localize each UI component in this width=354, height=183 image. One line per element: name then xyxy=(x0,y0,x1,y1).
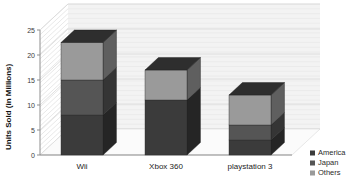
bar-xbox-360 xyxy=(145,58,200,155)
bar-segment-front xyxy=(229,95,271,125)
y-axis-tick-label: 25 xyxy=(27,27,35,34)
y-axis-tick-label: 10 xyxy=(27,102,35,109)
y-axis-tick-label: 15 xyxy=(27,77,35,84)
legend-swatch xyxy=(310,151,315,156)
stacked-3d-bar-chart: 0510152025 Units Sold (in Millions) WiiX… xyxy=(0,0,354,183)
x-axis-category-labels: WiiXbox 360playstation 3 xyxy=(76,162,273,171)
legend: AmericaJapanOthers xyxy=(310,148,346,177)
legend-label: Others xyxy=(318,168,341,177)
y-axis-title: Units Sold (in Millions) xyxy=(4,63,13,150)
bar-segment-front xyxy=(61,80,103,115)
x-axis-category-label: Xbox 360 xyxy=(149,162,183,171)
bar-segment-front xyxy=(229,125,271,140)
y-axis-ticks: 0510152025 xyxy=(27,27,40,159)
x-axis-category-label: playstation 3 xyxy=(228,162,273,171)
legend-label: America xyxy=(318,148,346,157)
bar-segment-front xyxy=(61,115,103,155)
bar-segment-front xyxy=(61,43,103,81)
x-axis-category-label: Wii xyxy=(76,162,87,171)
bar-segment-front xyxy=(229,140,271,155)
y-axis-tick-label: 0 xyxy=(31,152,35,159)
y-axis-tick-label: 20 xyxy=(27,52,35,59)
bar-segment-front xyxy=(145,100,187,155)
bar-wii xyxy=(61,30,116,155)
legend-swatch xyxy=(310,161,315,166)
legend-swatch xyxy=(310,171,315,176)
y-axis-tick-label: 5 xyxy=(31,127,35,134)
legend-label: Japan xyxy=(318,158,338,167)
bar-playstation-3 xyxy=(229,83,284,155)
bar-segment-front xyxy=(145,70,187,100)
chart-container: 0510152025 Units Sold (in Millions) WiiX… xyxy=(0,0,354,183)
